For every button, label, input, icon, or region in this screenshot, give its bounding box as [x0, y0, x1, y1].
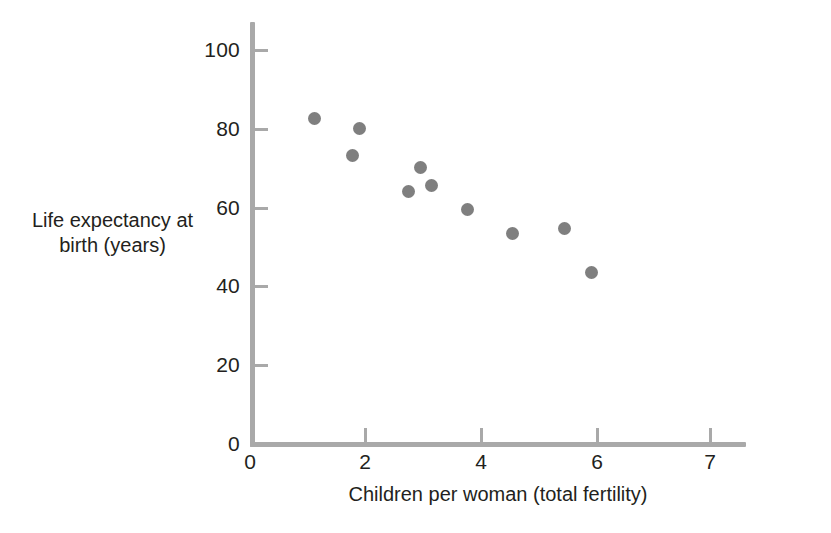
y-tick-label-wrap: 40: [120, 275, 240, 296]
data-point: [402, 185, 415, 198]
y-tick-label-wrap: 80: [120, 118, 240, 139]
data-point: [558, 222, 571, 235]
data-point: [506, 227, 519, 240]
x-tick-label-6: 6: [567, 450, 627, 474]
y-tick-label-60: 60: [180, 197, 240, 218]
y-tick-label-100: 100: [180, 39, 240, 60]
y-tick-label-wrap: 20: [120, 354, 240, 375]
data-point: [308, 112, 321, 125]
y-tick-label-20: 20: [180, 354, 240, 375]
x-tick-label-4: 4: [451, 450, 511, 474]
x-tick-label-wrap: 4: [451, 450, 511, 474]
data-point: [353, 122, 366, 135]
y-tick-label-wrap: 100: [120, 39, 240, 60]
y-axis-title-line-2: birth (years): [10, 233, 215, 258]
data-point: [425, 179, 438, 192]
x-tick-label-wrap: 7: [680, 450, 740, 474]
data-point: [414, 161, 427, 174]
data-point: [461, 203, 474, 216]
data-point: [346, 149, 359, 162]
x-tick-label-0: 0: [220, 450, 280, 474]
x-tick-label-2: 2: [335, 450, 395, 474]
data-point: [585, 266, 598, 279]
y-tick-label-40: 40: [180, 275, 240, 296]
x-axis-title: Children per woman (total fertility): [250, 482, 746, 506]
x-tick-label-wrap: 0: [220, 450, 280, 474]
y-tick-label-80: 80: [180, 118, 240, 139]
chart-figure: Life expectancy at birth (years) 0204060…: [0, 0, 831, 533]
y-tick-label-wrap: 60: [120, 197, 240, 218]
x-tick-label-wrap: 2: [335, 450, 395, 474]
plot-area: [250, 22, 745, 444]
x-tick-label-wrap: 6: [567, 450, 627, 474]
x-tick-label-7: 7: [680, 450, 740, 474]
